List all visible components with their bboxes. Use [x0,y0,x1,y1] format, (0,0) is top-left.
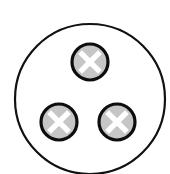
pin-bottom-right [99,104,135,140]
pin-top [72,44,108,80]
socket-diagram [0,0,170,174]
pin-bottom-left [41,104,77,140]
